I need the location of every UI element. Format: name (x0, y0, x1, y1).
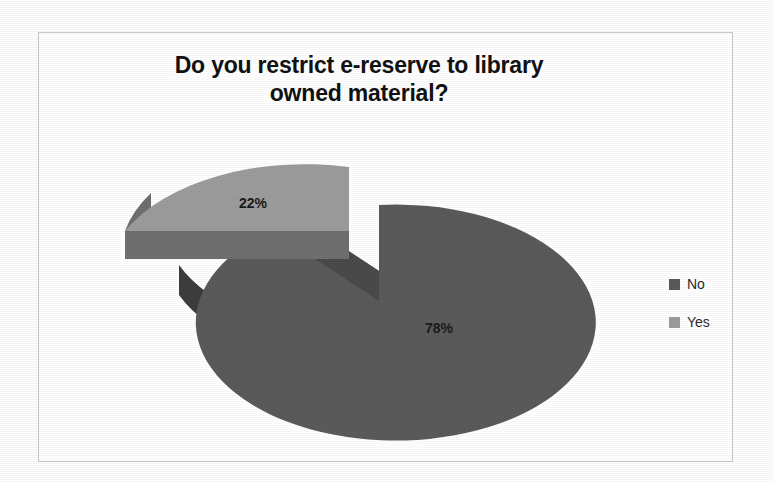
pie-label-no: 78% (425, 320, 454, 336)
chart-frame: Do you restrict e-reserve to library own… (38, 32, 733, 462)
legend-item-yes[interactable]: Yes (669, 303, 749, 341)
chart-legend: No Yes (669, 265, 749, 341)
legend-item-no[interactable]: No (669, 265, 749, 303)
pie-label-yes: 22% (239, 195, 268, 211)
pie-slice-yes-front-wall (125, 231, 349, 259)
legend-swatch-yes-icon (669, 317, 680, 328)
pie-chart-graphic: 22% 78% (39, 33, 734, 463)
legend-label-no: No (687, 277, 705, 291)
pie-slice-yes (125, 164, 349, 231)
legend-label-yes: Yes (687, 315, 710, 329)
chart-screenshot: Do you restrict e-reserve to library own… (0, 0, 774, 482)
legend-swatch-no-icon (669, 279, 680, 290)
